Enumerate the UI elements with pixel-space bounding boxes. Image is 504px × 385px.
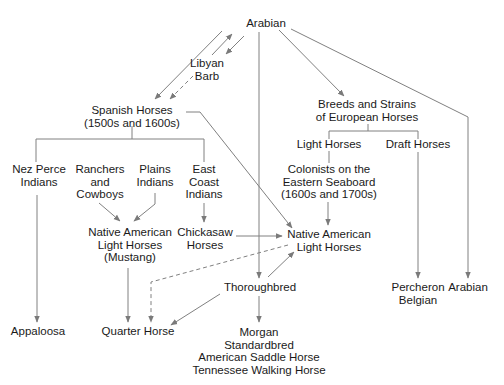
edge-plains-mustang [134,193,155,221]
node-colonists: Colonists on theEastern Seaboard(1600s a… [281,163,377,201]
edge-arabian-libyan [226,36,244,54]
edge-libyan-arabian [212,34,232,55]
node-spanish-horses: Spanish Horses(1500s and 1600s) [84,104,180,129]
node-chickasaw: ChickasawHorses [177,226,233,251]
node-east-coast: EastCoastIndians [185,163,222,201]
node-mustang: Native AmericanLight Horses(Mustang) [88,226,172,264]
node-quarter-horse: Quarter Horse [102,325,175,338]
node-arabian-top: Arabian [246,17,286,30]
node-percheron-belgian: PercheronBelgian [391,281,444,306]
edge-thoroughbred-native [268,252,294,277]
node-arabian-bottom: Arabian [448,281,488,294]
node-nez-perce: Nez PerceIndians [12,163,66,188]
node-libyan-barb: LibyanBarb [190,57,224,82]
node-light-horses: Light Horses [297,138,362,151]
node-european-horses: Breeds and Strainsof European Horses [316,98,418,123]
node-native-light: Native AmericanLight Horses [287,228,371,253]
node-thoroughbred: Thoroughbred [224,281,296,294]
node-ranchers: RanchersandCowboys [75,163,124,201]
edge-arabian-european [279,30,344,96]
node-plains: PlainsIndians [136,163,173,188]
edge-thoroughbred-quarter [171,294,220,325]
edge-ranchers-mustang [99,203,120,221]
node-morgan-group: MorganStandardbredAmerican Saddle HorseT… [192,326,325,376]
node-appaloosa: Appaloosa [11,325,65,338]
node-draft-horses: Draft Horses [386,138,451,151]
